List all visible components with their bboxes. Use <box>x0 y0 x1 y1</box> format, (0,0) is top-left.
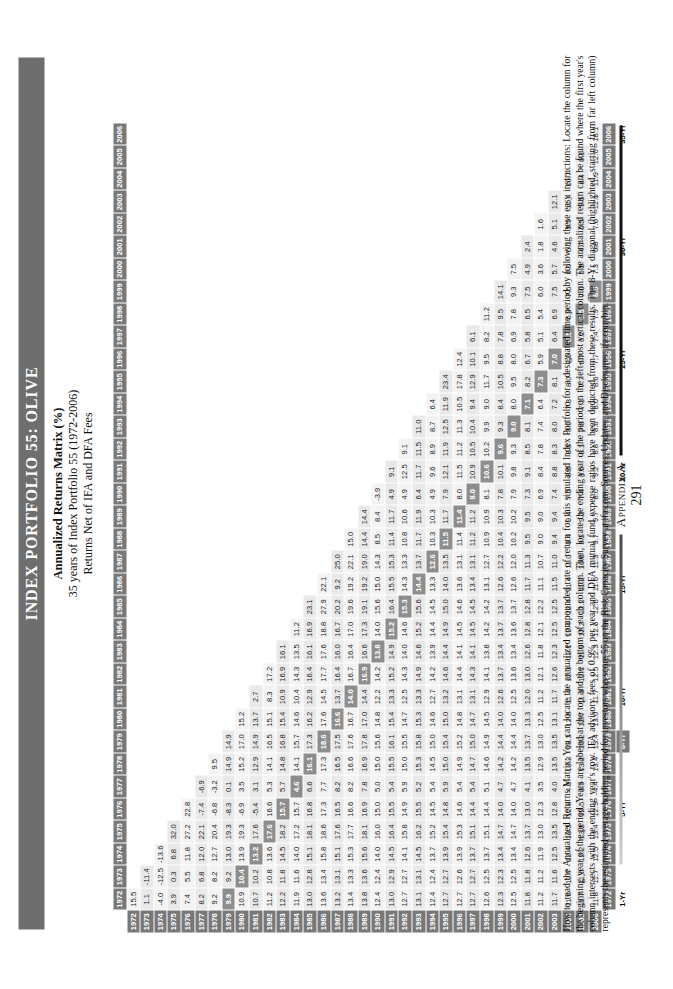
matrix-cell[interactable]: 9.4 <box>548 528 561 550</box>
matrix-cell[interactable]: 23.4 <box>439 371 452 393</box>
matrix-cell[interactable]: 13.9 <box>235 843 248 865</box>
matrix-cell[interactable]: 11.7 <box>521 573 534 595</box>
matrix-cell[interactable]: 12.3 <box>494 888 507 910</box>
matrix-cell[interactable]: 11.7 <box>385 506 398 528</box>
matrix-cell[interactable]: 12.3 <box>548 641 561 663</box>
matrix-cell[interactable]: 11.7 <box>412 461 425 483</box>
matrix-cell[interactable]: 5.5 <box>181 866 194 888</box>
column-header-1986[interactable]: 1986 <box>113 573 126 595</box>
matrix-cell[interactable]: 6.4 <box>548 326 561 348</box>
matrix-cell[interactable]: 2.4 <box>521 236 534 258</box>
matrix-cell[interactable]: 13.5 <box>548 821 561 843</box>
matrix-cell[interactable]: 12.7 <box>466 888 479 910</box>
matrix-cell[interactable]: 9.4 <box>548 506 561 528</box>
matrix-cell[interactable]: -11.4 <box>140 866 153 888</box>
matrix-cell[interactable]: 13.1 <box>412 888 425 910</box>
matrix-cell[interactable]: 14.4 <box>358 506 371 528</box>
matrix-cell[interactable]: 15.0 <box>439 596 452 618</box>
matrix-cell[interactable]: 14.4 <box>466 798 479 820</box>
matrix-cell[interactable]: 27.2 <box>181 821 194 843</box>
matrix-cell[interactable]: 10.9 <box>480 528 493 550</box>
matrix-cell[interactable]: 14.6 <box>398 618 411 640</box>
matrix-cell[interactable]: 13.6 <box>507 618 520 640</box>
matrix-cell[interactable]: 10.7 <box>249 888 262 910</box>
matrix-cell[interactable]: 7.5 <box>521 281 534 303</box>
matrix-cell[interactable]: 3.9 <box>167 888 180 910</box>
matrix-cell[interactable]: 11.5 <box>439 528 452 550</box>
matrix-cell[interactable]: 12.5 <box>548 596 561 618</box>
matrix-cell[interactable]: 16.9 <box>303 618 316 640</box>
matrix-cell[interactable]: 13.0 <box>385 888 398 910</box>
matrix-cell[interactable]: 14.2 <box>480 596 493 618</box>
matrix-cell[interactable]: 1.1 <box>140 888 153 910</box>
matrix-cell[interactable]: 11.2 <box>466 528 479 550</box>
row-header-1989[interactable]: 1989 <box>358 911 371 933</box>
matrix-cell[interactable]: 11.6 <box>290 866 303 888</box>
matrix-cell[interactable]: 15.2 <box>385 663 398 685</box>
row-header-1996[interactable]: 1996 <box>453 911 466 933</box>
matrix-cell[interactable]: 10.6 <box>398 506 411 528</box>
matrix-cell[interactable]: 7.1 <box>521 393 534 415</box>
matrix-cell[interactable]: 8.2 <box>195 888 208 910</box>
matrix-cell[interactable]: 10.3 <box>426 528 439 550</box>
matrix-cell[interactable]: 14.0 <box>398 641 411 663</box>
matrix-cell[interactable]: 14.4 <box>494 731 507 753</box>
matrix-cell[interactable]: 14.5 <box>412 843 425 865</box>
row-header-1990[interactable]: 1990 <box>371 911 384 933</box>
matrix-cell[interactable]: 15.0 <box>371 573 384 595</box>
matrix-cell[interactable]: -3.9 <box>371 483 384 505</box>
matrix-cell[interactable]: 11.3 <box>453 416 466 438</box>
matrix-cell[interactable]: 16.5 <box>331 798 344 820</box>
column-header-1978[interactable]: 1978 <box>113 753 126 775</box>
matrix-cell[interactable]: 13.8 <box>371 641 384 663</box>
matrix-cell[interactable]: 14.5 <box>276 843 289 865</box>
matrix-cell[interactable]: 13.3 <box>398 551 411 573</box>
matrix-cell[interactable]: 12.6 <box>507 573 520 595</box>
matrix-cell[interactable]: 13.9 <box>426 641 439 663</box>
matrix-cell[interactable]: 5.1 <box>548 213 561 235</box>
matrix-cell[interactable]: 8.0 <box>548 416 561 438</box>
matrix-cell[interactable]: 11.7 <box>439 506 452 528</box>
matrix-cell[interactable]: 12.4 <box>453 348 466 370</box>
matrix-cell[interactable]: 16.0 <box>331 641 344 663</box>
matrix-cell[interactable]: 6.9 <box>507 326 520 348</box>
column-header-1987[interactable]: 1987 <box>113 551 126 573</box>
matrix-cell[interactable]: 16.7 <box>331 618 344 640</box>
matrix-cell[interactable]: 12.6 <box>521 843 534 865</box>
matrix-cell[interactable]: 1.6 <box>534 213 547 235</box>
matrix-cell[interactable]: -8.3 <box>222 798 235 820</box>
matrix-cell[interactable]: 18.6 <box>317 821 330 843</box>
column-header-2001[interactable]: 2001 <box>113 236 126 258</box>
matrix-cell[interactable]: 13.7 <box>331 686 344 708</box>
matrix-cell[interactable]: 14.9 <box>222 731 235 753</box>
matrix-cell[interactable]: 9.6 <box>426 461 439 483</box>
matrix-cell[interactable]: 14.0 <box>371 843 384 865</box>
matrix-cell[interactable]: 7.4 <box>181 888 194 910</box>
matrix-cell[interactable]: 8.0 <box>507 393 520 415</box>
matrix-cell[interactable]: 13.8 <box>358 888 371 910</box>
matrix-cell[interactable]: 4.7 <box>494 776 507 798</box>
row-header-1985[interactable]: 1985 <box>303 911 316 933</box>
matrix-cell[interactable]: 10.4 <box>494 528 507 550</box>
matrix-cell[interactable]: 12.7 <box>439 866 452 888</box>
matrix-cell[interactable]: 15.6 <box>371 731 384 753</box>
matrix-cell[interactable]: 15.0 <box>426 731 439 753</box>
matrix-cell[interactable]: 6.8 <box>195 866 208 888</box>
matrix-cell[interactable]: 13.7 <box>426 843 439 865</box>
matrix-cell[interactable]: 12.2 <box>371 686 384 708</box>
matrix-cell[interactable]: 5.0 <box>371 776 384 798</box>
matrix-cell[interactable]: 14.3 <box>398 663 411 685</box>
matrix-cell[interactable]: 14.1 <box>263 753 276 775</box>
matrix-cell[interactable]: 9.1 <box>385 461 398 483</box>
matrix-cell[interactable]: 8.1 <box>548 371 561 393</box>
matrix-cell[interactable]: 8.5 <box>521 438 534 460</box>
matrix-cell[interactable]: 6.7 <box>521 348 534 370</box>
matrix-cell[interactable]: 8.2 <box>208 866 221 888</box>
matrix-cell[interactable]: 16.6 <box>344 798 357 820</box>
column-header-1980[interactable]: 1980 <box>113 708 126 730</box>
row-header-1981[interactable]: 1981 <box>249 911 262 933</box>
matrix-cell[interactable]: 12.2 <box>534 596 547 618</box>
matrix-cell[interactable]: -6.9 <box>195 776 208 798</box>
matrix-cell[interactable]: 13.7 <box>494 618 507 640</box>
matrix-cell[interactable]: 8.1 <box>521 416 534 438</box>
